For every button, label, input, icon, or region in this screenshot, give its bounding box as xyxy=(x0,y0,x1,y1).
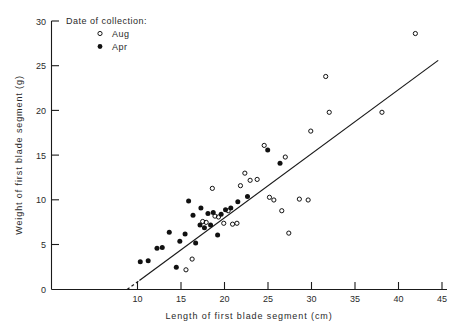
data-point-aug xyxy=(309,129,313,133)
data-point-aug xyxy=(283,155,287,159)
data-point-apr xyxy=(193,240,198,245)
legend-label-apr: Apr xyxy=(112,42,128,52)
data-point-apr xyxy=(177,239,182,244)
data-point-aug xyxy=(184,268,188,272)
data-point-aug xyxy=(413,31,417,35)
regression-line-solid xyxy=(139,60,438,280)
x-tick-label: 35 xyxy=(350,294,360,304)
data-point-aug xyxy=(235,221,239,225)
data-point-aug xyxy=(190,257,194,261)
data-point-aug xyxy=(248,178,252,182)
x-tick-label: 30 xyxy=(306,294,316,304)
data-point-apr xyxy=(208,223,213,228)
x-tick-label: 25 xyxy=(263,294,273,304)
data-point-apr xyxy=(245,194,250,199)
x-tick-label: 45 xyxy=(437,294,447,304)
legend-label-aug: Aug xyxy=(112,29,130,39)
data-point-apr xyxy=(265,147,270,152)
data-point-aug xyxy=(238,184,242,188)
legend-title: Date of collection: xyxy=(66,16,147,26)
data-point-aug xyxy=(297,197,301,201)
data-point-apr xyxy=(138,259,143,264)
data-point-apr xyxy=(235,199,240,204)
y-tick-label: 15 xyxy=(36,151,46,161)
data-point-apr xyxy=(167,230,172,235)
y-tick-label: 10 xyxy=(36,195,46,205)
data-point-apr xyxy=(146,258,151,263)
data-point-aug xyxy=(222,221,226,225)
data-point-aug xyxy=(287,231,291,235)
data-point-aug xyxy=(255,177,259,181)
data-point-apr xyxy=(198,206,203,211)
data-point-apr xyxy=(228,206,233,211)
y-tick-label: 0 xyxy=(41,285,46,295)
data-point-aug xyxy=(380,110,384,114)
data-point-apr xyxy=(191,213,196,218)
legend-marker-apr-icon xyxy=(98,44,103,49)
data-point-apr xyxy=(215,232,220,237)
y-axis-tick-labels: 30 25 20 15 10 5 0 xyxy=(36,17,46,295)
x-axis-ticks xyxy=(138,282,443,290)
regression-line xyxy=(127,60,438,289)
y-tick-label: 20 xyxy=(36,106,46,116)
y-tick-label: 25 xyxy=(36,61,46,71)
data-point-aug xyxy=(306,198,310,202)
data-point-apr xyxy=(219,212,224,217)
data-point-aug xyxy=(267,195,271,199)
data-point-aug xyxy=(262,143,266,147)
y-tick-label: 30 xyxy=(36,17,46,27)
x-tick-label: 40 xyxy=(393,294,403,304)
data-point-apr xyxy=(154,246,159,251)
legend-marker-aug-icon xyxy=(98,31,102,35)
x-tick-label: 15 xyxy=(176,294,186,304)
chart-canvas: 30 25 20 15 10 5 0 10 15 20 25 30 35 xyxy=(0,0,471,332)
data-point-apr xyxy=(174,265,179,270)
data-point-apr xyxy=(186,198,191,203)
data-point-aug xyxy=(280,209,284,213)
x-tick-label: 10 xyxy=(132,294,142,304)
y-axis-title: Weight of first blade segment (g) xyxy=(14,75,24,235)
data-point-apr xyxy=(205,211,210,216)
series-apr-points xyxy=(138,147,283,269)
data-point-aug xyxy=(324,74,328,78)
data-point-apr xyxy=(223,207,228,212)
data-point-aug xyxy=(210,186,214,190)
y-axis-ticks xyxy=(52,21,60,245)
data-point-aug xyxy=(327,110,331,114)
x-axis-tick-labels: 10 15 20 25 30 35 40 45 xyxy=(132,294,447,304)
data-point-aug xyxy=(272,198,276,202)
y-tick-label: 5 xyxy=(41,240,46,250)
data-point-aug xyxy=(230,222,234,226)
data-point-apr xyxy=(278,161,283,166)
scatter-plot-figure: 30 25 20 15 10 5 0 10 15 20 25 30 35 xyxy=(0,0,471,332)
data-point-apr xyxy=(160,245,165,250)
data-point-apr xyxy=(183,232,188,237)
legend: Date of collection: Aug Apr xyxy=(66,16,147,52)
x-axis-title: Length of first blade segment (cm) xyxy=(165,311,332,321)
x-tick-label: 20 xyxy=(219,294,229,304)
data-point-aug xyxy=(243,171,247,175)
data-point-apr xyxy=(202,225,207,230)
